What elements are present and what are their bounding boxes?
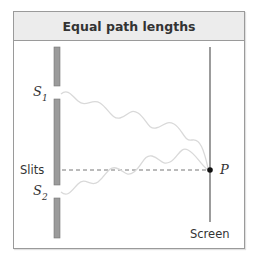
point-p-label: P bbox=[220, 162, 229, 177]
s1-label: S1 bbox=[33, 84, 48, 102]
slits-label: Slits bbox=[20, 163, 44, 177]
barrier-middle bbox=[54, 99, 60, 185]
wave-s1-to-p bbox=[61, 92, 208, 168]
s2-letter: S bbox=[33, 183, 42, 198]
s1-letter: S bbox=[33, 84, 42, 99]
wave-s2-to-p bbox=[61, 149, 208, 194]
s2-subscript: 2 bbox=[42, 192, 48, 202]
double-slit-diagram bbox=[0, 0, 261, 255]
screen-label: Screen bbox=[190, 227, 230, 241]
s1-subscript: 1 bbox=[42, 93, 48, 103]
s2-label: S2 bbox=[33, 183, 48, 201]
point-p-marker bbox=[207, 167, 213, 173]
barrier-bottom bbox=[54, 198, 60, 238]
barrier-top bbox=[54, 47, 60, 86]
